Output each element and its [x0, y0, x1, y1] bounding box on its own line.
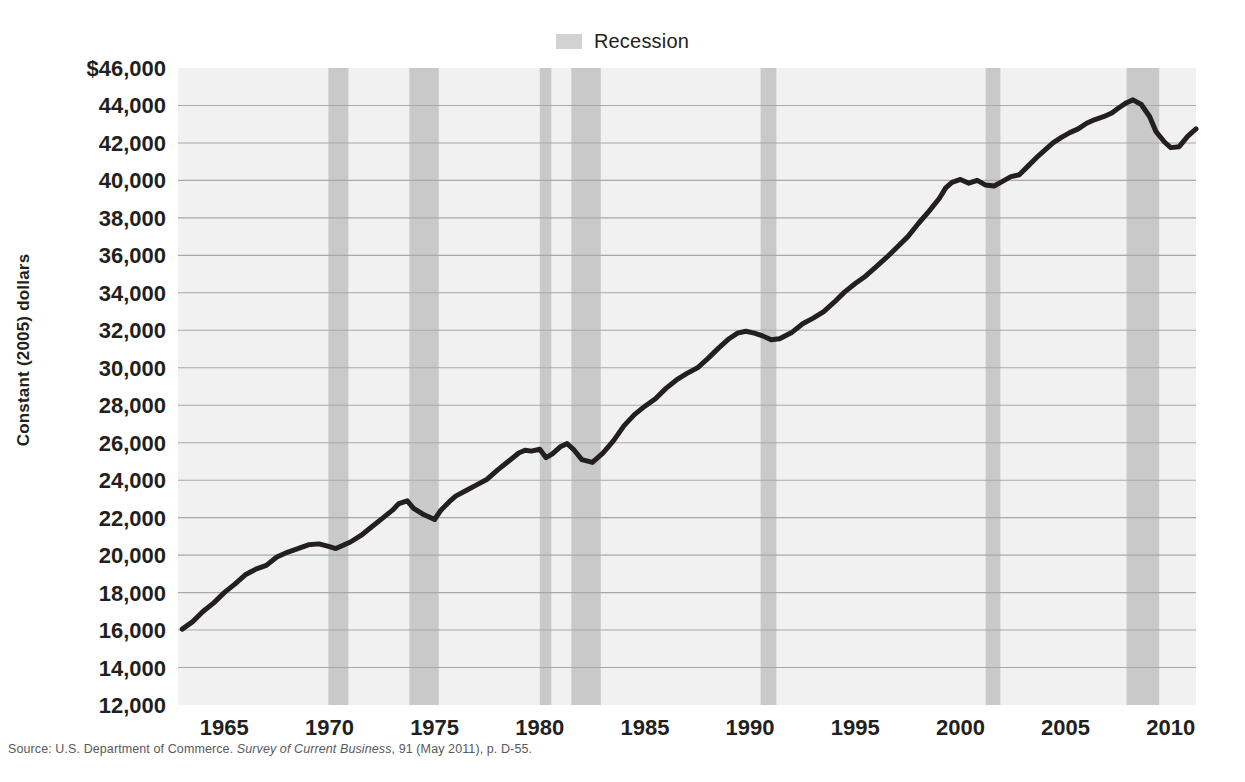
- y-axis-tick-labels: $46,00044,00042,00040,00038,00036,00034,…: [86, 56, 166, 718]
- y-tick-label: $46,000: [86, 56, 166, 81]
- line-chart: $46,00044,00042,00040,00038,00036,00034,…: [0, 0, 1245, 745]
- x-tick-label: 1980: [515, 715, 564, 740]
- y-tick-label: 18,000: [99, 581, 166, 606]
- x-tick-label: 1970: [305, 715, 354, 740]
- recession-band: [1127, 68, 1160, 705]
- y-tick-label: 20,000: [99, 543, 166, 568]
- y-tick-label: 34,000: [99, 281, 166, 306]
- x-tick-label: 1985: [620, 715, 669, 740]
- y-tick-label: 22,000: [99, 506, 166, 531]
- y-tick-label: 32,000: [99, 318, 166, 343]
- x-tick-label: 2005: [1041, 715, 1090, 740]
- x-tick-label: 1965: [200, 715, 249, 740]
- recession-band: [328, 68, 348, 705]
- source-suffix: , 91 (May 2011), p. D-55.: [392, 742, 533, 756]
- y-tick-label: 12,000: [99, 693, 166, 718]
- y-tick-label: 38,000: [99, 206, 166, 231]
- recession-band: [540, 68, 552, 705]
- y-tick-label: 24,000: [99, 468, 166, 493]
- x-tick-label: 1975: [410, 715, 459, 740]
- y-tick-label: 44,000: [99, 93, 166, 118]
- source-publication: Survey of Current Business: [237, 742, 392, 756]
- x-axis-tick-labels: 1965197019751980198519901995200020052010: [200, 715, 1195, 740]
- y-tick-label: 30,000: [99, 356, 166, 381]
- y-tick-label: 16,000: [99, 618, 166, 643]
- source-note: Source: U.S. Department of Commerce. Sur…: [8, 742, 532, 756]
- y-tick-label: 42,000: [99, 131, 166, 156]
- y-tick-label: 14,000: [99, 656, 166, 681]
- recession-band: [986, 68, 1001, 705]
- recession-band: [409, 68, 438, 705]
- x-tick-label: 2000: [936, 715, 985, 740]
- y-tick-label: 36,000: [99, 243, 166, 268]
- x-tick-label: 2010: [1146, 715, 1195, 740]
- source-prefix: Source: U.S. Department of Commerce.: [8, 742, 237, 756]
- y-tick-label: 26,000: [99, 431, 166, 456]
- recession-band: [571, 68, 600, 705]
- x-tick-label: 1995: [831, 715, 880, 740]
- recession-band: [761, 68, 777, 705]
- y-tick-label: 40,000: [99, 168, 166, 193]
- y-tick-label: 28,000: [99, 393, 166, 418]
- x-tick-label: 1990: [726, 715, 775, 740]
